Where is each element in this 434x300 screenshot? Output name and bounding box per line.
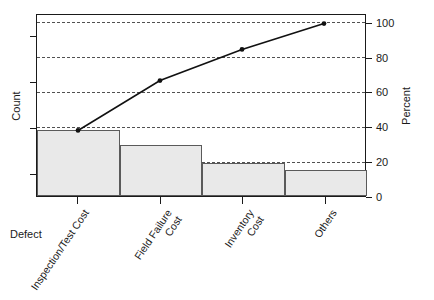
defect-axis-tick (242, 197, 243, 204)
percent-axis-tick (366, 127, 372, 128)
cumulative-point-marker (322, 21, 327, 26)
percent-axis-tick-label: 40 (376, 122, 388, 133)
defect-axis-tick (160, 197, 161, 204)
defect-axis-tick-label: Field Failure Cost (131, 207, 183, 268)
plot-area (36, 14, 366, 197)
defect-axis-tick (77, 197, 78, 204)
percent-axis-tick-label: 20 (376, 157, 388, 168)
cumulative-line-layer (37, 15, 365, 196)
percent-axis-tick-label: 0 (376, 192, 382, 203)
percent-axis-tick (366, 92, 372, 93)
defect-axis-tick-label: Others (311, 207, 339, 240)
count-axis-title-text: Count (10, 91, 22, 120)
percent-axis-tick (366, 23, 372, 24)
cumulative-point-marker (158, 78, 163, 83)
defect-axis-tick-label: Inventory Cost (222, 207, 266, 256)
percent-axis: 020406080100 (366, 14, 426, 197)
defect-axis-tick-label: Inspection/Test Cost (28, 207, 91, 292)
defect-axis-title: Defect (10, 228, 42, 240)
cumulative-percent-line (78, 24, 324, 131)
percent-axis-tick-label: 100 (376, 17, 394, 28)
percent-axis-title-text: Percent (400, 87, 412, 125)
percent-axis-tick (366, 58, 372, 59)
cumulative-point-marker (240, 47, 245, 52)
cumulative-point-marker (76, 128, 81, 133)
percent-axis-tick-label: 60 (376, 87, 388, 98)
percent-axis-tick-label: 80 (376, 52, 388, 63)
count-axis-title: Count (8, 14, 24, 197)
percent-axis-title: Percent (398, 14, 414, 197)
percent-axis-tick (366, 162, 372, 163)
defect-axis-tick (325, 197, 326, 204)
pareto-chart: Count 020406080100 Percent Inspection/Te… (0, 0, 434, 300)
percent-axis-tick (366, 197, 372, 198)
defect-axis: Inspection/Test CostField Failure CostIn… (36, 197, 366, 297)
